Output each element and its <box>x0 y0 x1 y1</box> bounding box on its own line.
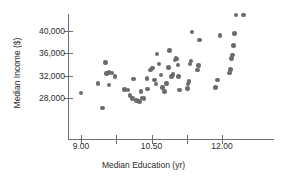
data-point <box>232 31 237 36</box>
y-tick-label-28000: 28,000 <box>39 94 65 102</box>
x-tick-label-10.5: 10.50 <box>141 142 162 151</box>
data-point <box>150 66 155 71</box>
data-point <box>195 68 200 73</box>
data-point <box>154 82 159 87</box>
x-tick-11.25 <box>187 135 188 144</box>
x-axis-line <box>68 139 274 140</box>
data-point <box>187 79 192 84</box>
data-point <box>189 59 194 64</box>
data-point <box>157 62 162 67</box>
data-point <box>230 53 235 58</box>
data-point <box>145 87 150 92</box>
data-point <box>234 13 239 18</box>
data-point <box>131 77 136 82</box>
data-point <box>142 96 147 101</box>
x-tick-9.75 <box>116 135 117 144</box>
x-tick-label-9: 9.00 <box>73 142 90 151</box>
data-point <box>103 60 108 65</box>
data-point <box>228 67 233 72</box>
data-point <box>196 63 201 68</box>
plot-area: 28,00032,00036,00040,000 9.0010.5012.00 … <box>0 0 287 178</box>
data-point <box>175 57 180 62</box>
data-point <box>197 38 202 43</box>
data-point <box>176 63 181 68</box>
data-point <box>159 73 164 78</box>
data-point <box>166 65 171 70</box>
data-point <box>231 43 236 48</box>
y-axis-line <box>68 14 69 140</box>
y-tick-40000 <box>64 31 73 32</box>
x-axis-title: Median Education (yr) <box>0 160 287 170</box>
y-axis-title: Median Income ($) <box>12 18 22 128</box>
data-point <box>126 88 131 93</box>
data-point <box>218 33 223 38</box>
y-tick-label-36000: 36,000 <box>39 49 65 57</box>
data-point <box>215 78 220 83</box>
x-tick-label-12: 12.00 <box>211 142 232 151</box>
data-point <box>176 74 181 79</box>
data-point <box>185 86 190 91</box>
y-tick-label-40000: 40,000 <box>39 27 65 35</box>
data-point <box>171 72 176 77</box>
data-point <box>96 81 101 86</box>
data-point <box>139 89 144 94</box>
data-point <box>167 48 172 53</box>
data-point <box>155 52 160 57</box>
y-tick-32000 <box>64 76 73 77</box>
data-point <box>164 81 169 86</box>
data-point <box>145 76 150 81</box>
data-point <box>190 30 195 35</box>
data-point <box>100 106 105 111</box>
data-point <box>107 83 112 88</box>
data-point <box>113 74 118 79</box>
data-point <box>241 13 246 18</box>
y-tick-label-32000: 32,000 <box>39 72 65 80</box>
y-tick-28000 <box>64 98 73 99</box>
data-point <box>162 89 167 94</box>
data-point <box>79 91 84 96</box>
y-tick-36000 <box>64 53 73 54</box>
data-point <box>177 88 182 93</box>
data-point <box>213 85 218 90</box>
scatter-plot-figure: 28,00032,00036,00040,000 9.0010.5012.00 … <box>0 0 287 178</box>
